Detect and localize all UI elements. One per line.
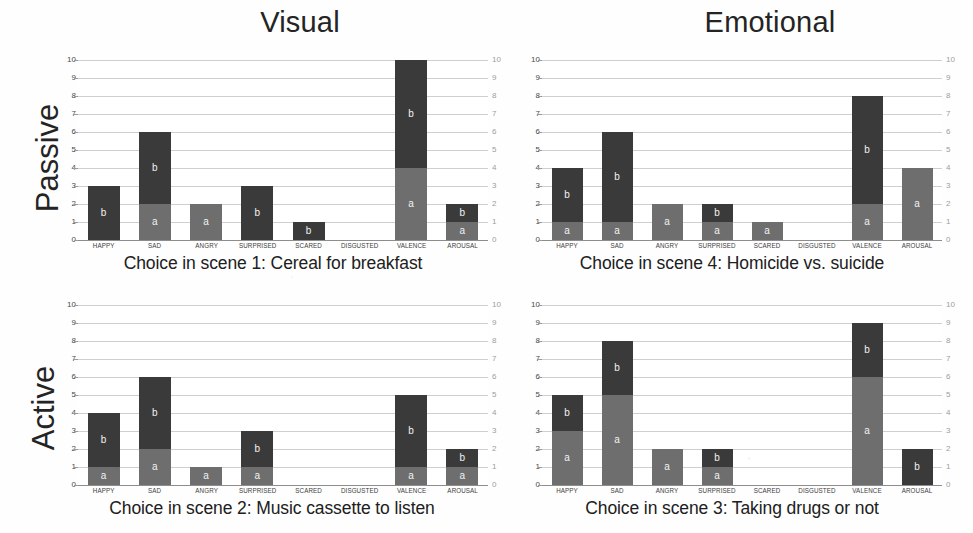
bar-segment-b[interactable]: b	[552, 395, 583, 431]
bar-segment-a[interactable]: a	[852, 377, 883, 485]
bar-slot	[792, 305, 842, 485]
bar-segment-b[interactable]: b	[241, 431, 273, 467]
stacked-bar[interactable]: ab	[852, 96, 883, 240]
bar-segment-b[interactable]: b	[241, 186, 273, 240]
bar-segment-b[interactable]: b	[552, 168, 583, 222]
bar-segment-b[interactable]: b	[902, 449, 933, 485]
bar-segment-a[interactable]: a	[88, 467, 120, 485]
bar-segment-label: a	[408, 199, 414, 209]
bar-segment-label: b	[460, 208, 466, 218]
bar-segment-b[interactable]: b	[139, 377, 171, 449]
bar-segment-a[interactable]: a	[139, 449, 171, 485]
x-tick-label: SCARED	[284, 487, 333, 494]
bar-segment-a[interactable]: a	[395, 168, 427, 240]
bar-segment-b[interactable]: b	[88, 413, 120, 467]
x-tick-label: HAPPY	[79, 242, 128, 249]
bar-segment-a[interactable]: a	[395, 467, 427, 485]
bar-segment-a[interactable]: a	[552, 222, 583, 240]
bar-segment-b[interactable]: b	[702, 204, 733, 222]
stacked-bar[interactable]: b	[241, 186, 273, 240]
bar-segment-a[interactable]: a	[190, 204, 222, 240]
stacked-bar[interactable]: ab	[395, 395, 427, 485]
bar-group: ababaabaaba	[542, 60, 942, 240]
y-tick-label: 1	[946, 218, 950, 226]
stacked-bar[interactable]: ab	[395, 60, 427, 240]
bar-segment-a[interactable]: a	[652, 204, 683, 240]
bar-segment-label: b	[714, 453, 720, 463]
bar-segment-b[interactable]: b	[446, 204, 478, 222]
stacked-bar[interactable]: a	[190, 467, 222, 485]
bar-segment-a[interactable]: a	[446, 222, 478, 240]
y-tick-label: 5	[492, 146, 496, 154]
bar-segment-a[interactable]: a	[552, 431, 583, 485]
y-tick-label: 1	[492, 463, 496, 471]
stacked-bar[interactable]: b	[293, 222, 325, 240]
bar-segment-a[interactable]: a	[752, 222, 783, 240]
bar-segment-b[interactable]: b	[602, 132, 633, 222]
bar-segment-a[interactable]: a	[902, 168, 933, 240]
bar-segment-a[interactable]: a	[446, 467, 478, 485]
stacked-bar[interactable]: ab	[446, 204, 478, 240]
bar-segment-b[interactable]: b	[852, 96, 883, 204]
stacked-bar[interactable]: ab	[702, 204, 733, 240]
plot-area: 012345678910012345678910ababaabababHAPPY…	[58, 305, 488, 485]
stacked-bar[interactable]: a	[190, 204, 222, 240]
bar-segment-label: a	[460, 226, 466, 236]
bar-segment-a[interactable]: a	[602, 222, 633, 240]
bar-segment-label: a	[614, 226, 620, 236]
bar-slot: a	[181, 305, 232, 485]
y-tick-label: 8	[946, 92, 950, 100]
stacked-bar[interactable]: ab	[852, 323, 883, 485]
bar-segment-a[interactable]: a	[702, 222, 733, 240]
bar-slot: a	[642, 60, 692, 240]
x-tick-label: SCARED	[743, 242, 791, 249]
stacked-bar[interactable]: ab	[241, 431, 273, 485]
stacked-bar[interactable]: ab	[446, 449, 478, 485]
bar-segment-a[interactable]: a	[241, 467, 273, 485]
bar-segment-a[interactable]: a	[852, 204, 883, 240]
stacked-bar[interactable]: ab	[702, 449, 733, 485]
bar-segment-b[interactable]: b	[446, 449, 478, 467]
stacked-bar[interactable]: a	[652, 204, 683, 240]
bar-segment-label: a	[564, 226, 570, 236]
bar-segment-b[interactable]: b	[602, 341, 633, 395]
bar-segment-label: b	[408, 109, 414, 119]
stacked-bar[interactable]: ab	[552, 395, 583, 485]
stacked-bar[interactable]: ab	[139, 132, 171, 240]
bar-segment-b[interactable]: b	[139, 132, 171, 204]
bar-segment-a[interactable]: a	[139, 204, 171, 240]
bar-group: ababaababb	[542, 305, 942, 485]
bar-segment-b[interactable]: b	[293, 222, 325, 240]
stacked-bar[interactable]: b	[902, 449, 933, 485]
stacked-bar[interactable]: a	[652, 449, 683, 485]
stacked-bar[interactable]: ab	[602, 132, 633, 240]
x-tick-label: AROUSAL	[893, 242, 941, 249]
bar-segment-b[interactable]: b	[395, 60, 427, 168]
stacked-bar[interactable]: ab	[552, 168, 583, 240]
bar-segment-b[interactable]: b	[852, 323, 883, 377]
bar-segment-label: a	[564, 453, 570, 463]
bar-segment-b[interactable]: b	[88, 186, 120, 240]
y-tick-label: 7	[492, 110, 496, 118]
stacked-bar[interactable]: ab	[139, 377, 171, 485]
x-tick-label: AROUSAL	[893, 487, 941, 494]
bar-segment-label: a	[714, 471, 720, 481]
bar-segment-a[interactable]: a	[190, 467, 222, 485]
stacked-bar[interactable]: b	[88, 186, 120, 240]
gridline	[542, 240, 942, 241]
stacked-bar[interactable]: ab	[88, 413, 120, 485]
bar-segment-label: a	[864, 217, 870, 227]
bar-segment-a[interactable]: a	[602, 395, 633, 485]
bar-segment-label: a	[152, 217, 158, 227]
bar-segment-b[interactable]: b	[702, 449, 733, 467]
x-tick-label: DISGUSTED	[335, 242, 384, 249]
y-tick-label: 7	[492, 355, 496, 363]
bar-segment-b[interactable]: b	[395, 395, 427, 467]
stacked-bar[interactable]: ab	[602, 341, 633, 485]
stacked-bar[interactable]: a	[752, 222, 783, 240]
bar-segment-a[interactable]: a	[702, 467, 733, 485]
stacked-bar[interactable]: a	[902, 168, 933, 240]
bar-segment-a[interactable]: a	[652, 449, 683, 485]
gridline	[78, 485, 488, 486]
chart-caption-scene3: Choice in scene 3: Taking drugs or not	[512, 498, 952, 519]
